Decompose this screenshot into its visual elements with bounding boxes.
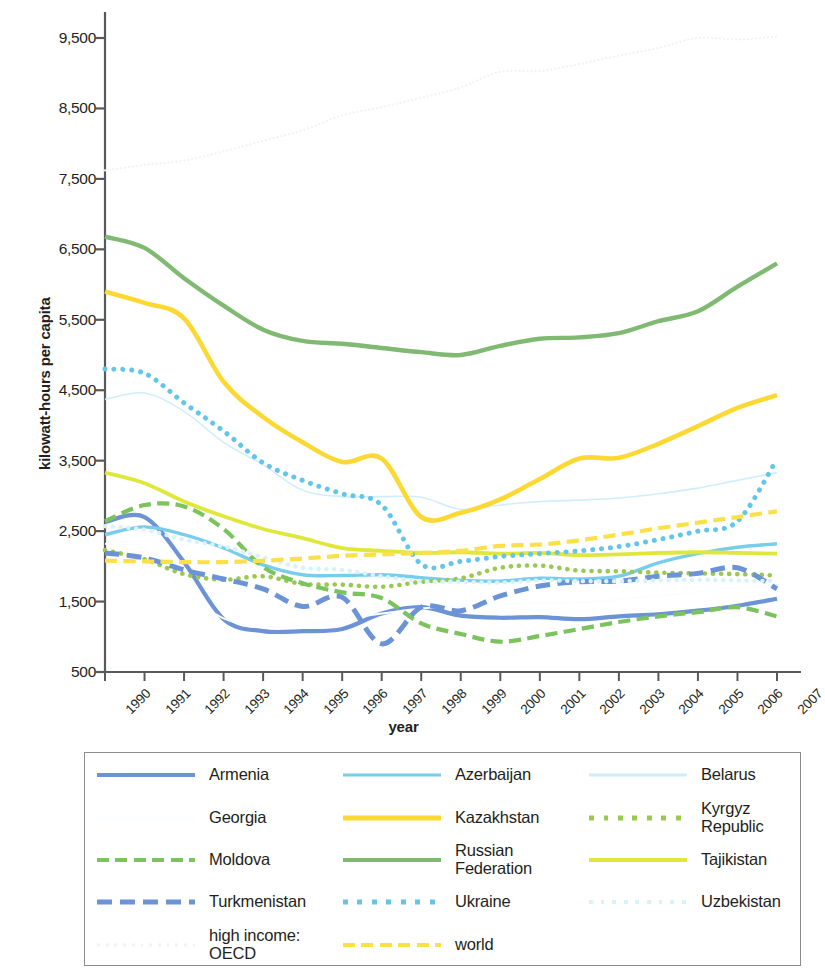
x-tick-label: 1997 [399, 686, 430, 717]
legend-label: Georgia [209, 809, 266, 827]
x-tick-label: 1998 [439, 686, 470, 717]
x-tick-label: 1990 [122, 686, 153, 717]
legend-grid: ArmeniaAzerbaijanBelarusGeorgiaKazakhsta… [85, 753, 800, 965]
legend-item-uzbekistan[interactable]: Uzbekistan [577, 881, 800, 923]
legend-swatch-icon [343, 853, 441, 867]
legend-swatch-icon [97, 895, 195, 909]
x-axis-tick-labels: 1990199119921993199419951996199719981999… [0, 0, 807, 745]
legend-swatch-icon [97, 853, 195, 867]
legend-item-armenia[interactable]: Armenia [85, 753, 331, 797]
legend-label: high income:OECD [209, 927, 300, 963]
x-tick-label: 2002 [597, 686, 628, 717]
x-tick-label: 2001 [557, 686, 588, 717]
legend-label: Tajikistan [701, 851, 767, 869]
legend-label: Moldova [209, 851, 270, 869]
legend-swatch-icon [589, 895, 687, 909]
legend-swatch-icon [589, 853, 687, 867]
legend-swatch-icon [97, 811, 195, 825]
legend-item-high-income-oecd[interactable]: high income:OECD [85, 923, 331, 967]
x-tick-label: 1993 [241, 686, 272, 717]
legend-label: Russian Federation [455, 842, 577, 878]
legend-item-kazakhstan[interactable]: Kazakhstan [331, 797, 577, 839]
legend-label: world [455, 936, 493, 954]
legend-item-kyrgyz-republic[interactable]: Kyrgyz Republic [577, 797, 800, 839]
legend-swatch-icon [589, 768, 687, 782]
line-chart: kilowatt-hours per capita 5001,5002,5003… [0, 0, 807, 745]
legend-item-world[interactable]: world [331, 923, 577, 967]
x-tick-label: 2006 [755, 686, 786, 717]
legend-item-azerbaijan[interactable]: Azerbaijan [331, 753, 577, 797]
legend-item-ukraine[interactable]: Ukraine [331, 881, 577, 923]
x-axis-label: year [0, 718, 807, 735]
x-tick-label: 1999 [478, 686, 509, 717]
legend-label: Kazakhstan [455, 809, 539, 827]
legend-item-belarus[interactable]: Belarus [577, 753, 800, 797]
legend-item-tajikistan[interactable]: Tajikistan [577, 839, 800, 881]
x-tick-label: 1995 [320, 686, 351, 717]
x-tick-label: 2003 [636, 686, 667, 717]
legend-swatch-icon [343, 811, 441, 825]
legend-label: Ukraine [455, 893, 510, 911]
legend-label: Uzbekistan [701, 893, 781, 911]
legend-label: Azerbaijan [455, 766, 531, 784]
legend-swatch-icon [343, 895, 441, 909]
x-tick-label: 2004 [676, 686, 707, 717]
legend-label: Belarus [701, 766, 756, 784]
legend-swatch-icon [97, 768, 195, 782]
legend-item-turkmenistan[interactable]: Turkmenistan [85, 881, 331, 923]
x-tick-label: 2005 [715, 686, 746, 717]
legend-swatch-icon [589, 811, 687, 825]
x-tick-label: 1996 [360, 686, 391, 717]
legend-label: Kyrgyz Republic [701, 800, 800, 836]
legend-swatch-icon [97, 938, 195, 952]
legend-item-moldova[interactable]: Moldova [85, 839, 331, 881]
legend: ArmeniaAzerbaijanBelarusGeorgiaKazakhsta… [84, 752, 801, 966]
legend-label: Armenia [209, 766, 269, 784]
legend-label: Turkmenistan [209, 893, 306, 911]
x-tick-label: 2007 [794, 686, 825, 717]
legend-swatch-icon [343, 768, 441, 782]
x-tick-label: 1991 [162, 686, 193, 717]
x-tick-label: 2000 [518, 686, 549, 717]
legend-swatch-icon [343, 938, 441, 952]
legend-item-georgia[interactable]: Georgia [85, 797, 331, 839]
x-tick-label: 1994 [281, 686, 312, 717]
x-tick-label: 1992 [201, 686, 232, 717]
legend-item-russian-federation[interactable]: Russian Federation [331, 839, 577, 881]
